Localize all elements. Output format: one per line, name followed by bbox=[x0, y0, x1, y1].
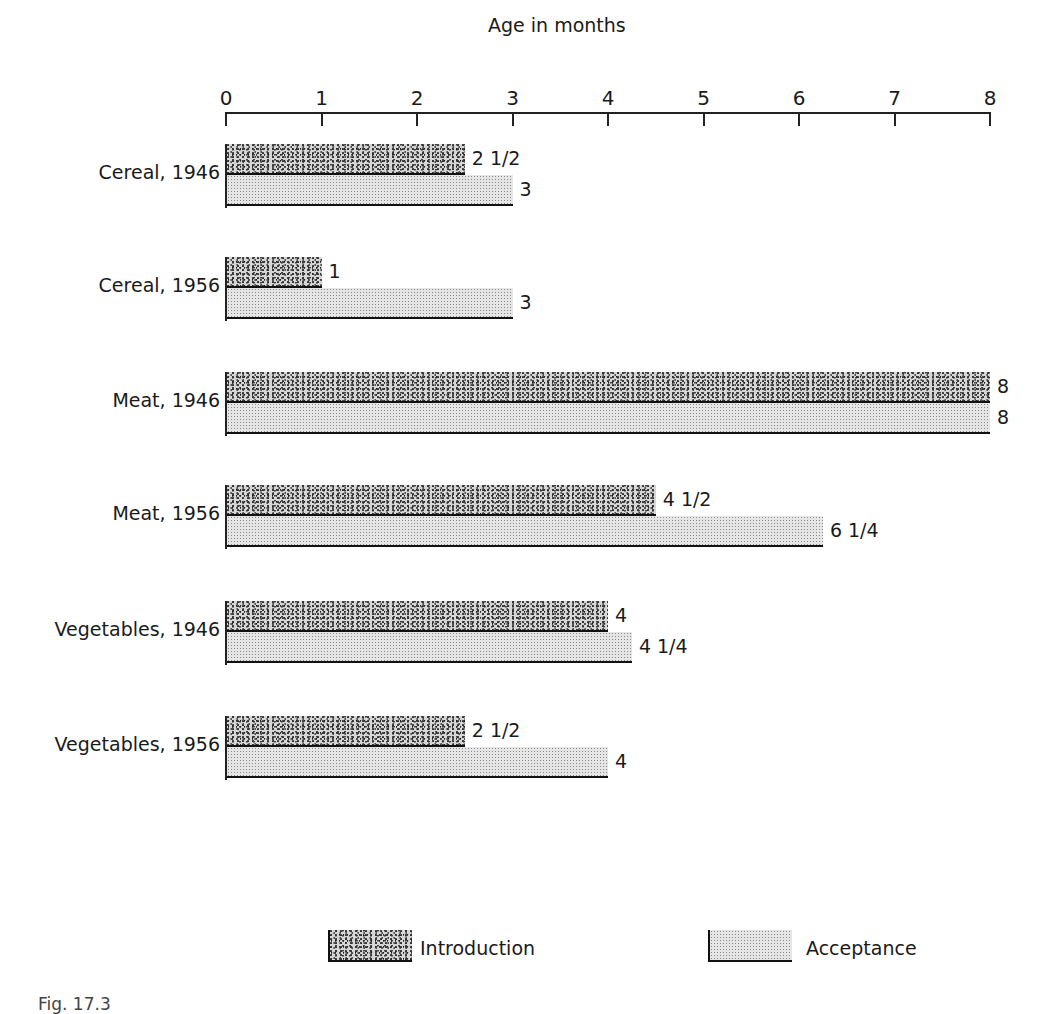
bar-acceptance bbox=[227, 516, 823, 547]
bar-value-label: 4 1/4 bbox=[639, 635, 688, 657]
x-tick bbox=[989, 112, 991, 126]
bar-acceptance bbox=[227, 175, 513, 206]
x-tick bbox=[225, 112, 227, 126]
bar-value-label: 1 bbox=[329, 260, 341, 282]
x-tick-label: 6 bbox=[793, 86, 806, 110]
bar-value-label: 4 1/2 bbox=[663, 488, 712, 510]
x-tick bbox=[703, 112, 705, 126]
x-tick bbox=[607, 112, 609, 126]
bar-introduction bbox=[227, 601, 608, 632]
bar-value-label: 4 bbox=[615, 750, 627, 772]
bar-introduction bbox=[227, 257, 322, 288]
bar-introduction bbox=[227, 716, 465, 747]
bar-acceptance bbox=[227, 288, 513, 319]
category-label: Meat, 1946 bbox=[5, 389, 220, 411]
x-tick bbox=[798, 112, 800, 126]
bar-introduction bbox=[227, 144, 465, 175]
bar-value-label: 3 bbox=[520, 291, 532, 313]
bar-acceptance bbox=[227, 747, 608, 778]
bar-value-label: 6 1/4 bbox=[830, 519, 879, 541]
bar-acceptance bbox=[227, 403, 990, 434]
x-axis-title: Age in months bbox=[488, 14, 626, 36]
bar-value-label: 2 1/2 bbox=[472, 147, 521, 169]
x-tick-label: 7 bbox=[888, 86, 901, 110]
bar-introduction bbox=[227, 485, 656, 516]
legend-swatch-acceptance bbox=[708, 930, 792, 962]
category-label: Vegetables, 1946 bbox=[5, 618, 220, 640]
bar-value-label: 4 bbox=[615, 604, 627, 626]
legend-swatch-introduction bbox=[328, 930, 412, 962]
x-tick bbox=[416, 112, 418, 126]
x-tick-label: 1 bbox=[315, 86, 328, 110]
legend-label-acceptance: Acceptance bbox=[806, 937, 917, 959]
x-tick-label: 3 bbox=[506, 86, 519, 110]
x-tick-label: 2 bbox=[411, 86, 424, 110]
x-tick-label: 8 bbox=[984, 86, 997, 110]
bar-acceptance bbox=[227, 632, 632, 663]
bar-value-label: 3 bbox=[520, 178, 532, 200]
bar-introduction bbox=[227, 372, 990, 403]
x-tick bbox=[321, 112, 323, 126]
x-tick-label: 0 bbox=[220, 86, 233, 110]
category-label: Cereal, 1946 bbox=[5, 161, 220, 183]
bar-value-label: 8 bbox=[997, 375, 1009, 397]
legend-label-introduction: Introduction bbox=[420, 937, 535, 959]
page-artifact: · · bbox=[85, 0, 98, 6]
category-label: Vegetables, 1956 bbox=[5, 733, 220, 755]
x-tick bbox=[894, 112, 896, 126]
x-tick-label: 4 bbox=[602, 86, 615, 110]
category-label: Meat, 1956 bbox=[5, 502, 220, 524]
bar-value-label: 2 1/2 bbox=[472, 719, 521, 741]
category-label: Cereal, 1956 bbox=[5, 274, 220, 296]
bar-value-label: 8 bbox=[997, 406, 1009, 428]
figure-caption: Fig. 17.3 bbox=[38, 994, 111, 1014]
x-tick bbox=[512, 112, 514, 126]
x-tick-label: 5 bbox=[697, 86, 710, 110]
